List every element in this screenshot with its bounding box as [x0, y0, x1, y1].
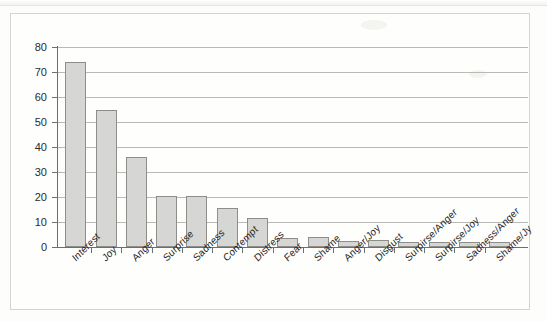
x-axis-tick-label: Interest — [70, 230, 102, 263]
scan-artifact-line — [0, 5, 547, 6]
x-axis-tick-label: Anger — [130, 235, 157, 263]
x-axis-tick-label: Surpirse/Anger — [403, 206, 459, 264]
x-axis-tick-label: Shame — [312, 232, 342, 264]
x-axis-tick-label: Fear — [282, 240, 304, 264]
x-axis-tick-label: Joy — [100, 244, 118, 264]
x-axis-labels: InterestJoyAngerSurpriseSadnessContemptD… — [11, 14, 531, 311]
chart-screenshot: 01020304050607080 InterestJoyAngerSurpri… — [0, 0, 547, 322]
x-axis-tick-label: Sadness — [191, 226, 226, 263]
chart-frame: 01020304050607080 InterestJoyAngerSurpri… — [10, 13, 530, 310]
x-axis-tick-label: Sadness/Anger — [464, 205, 521, 264]
x-axis-tick-label: Disgust — [373, 230, 405, 263]
x-axis-tick-label: Surprise — [161, 228, 195, 264]
